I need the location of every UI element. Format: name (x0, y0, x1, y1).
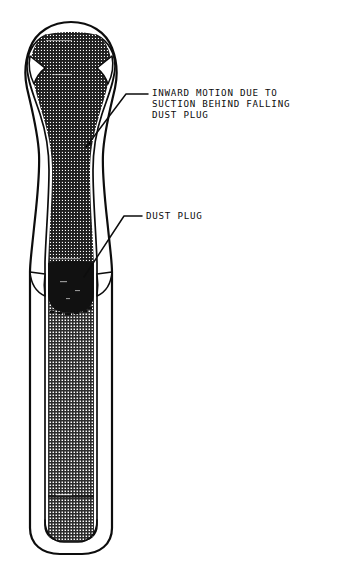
label-dust-plug: DUST PLUG (146, 210, 247, 221)
lower-granular-charge (48, 286, 94, 541)
label-dust-plug-line-1: DUST PLUG (146, 210, 203, 221)
dust-plug-mass (48, 261, 94, 313)
label-inward-motion-line-3: DUST PLUG (152, 109, 209, 120)
label-inward-motion-line-1: INWARD MOTION DUE TO (152, 87, 278, 98)
annotation-layer: INWARD MOTION DUE TO SUCTION BEHIND FALL… (84, 87, 347, 277)
technical-diagram: INWARD MOTION DUE TO SUCTION BEHIND FALL… (0, 0, 355, 570)
diagram-canvas: INWARD MOTION DUE TO SUCTION BEHIND FALL… (0, 0, 355, 570)
label-inward-motion-line-2: SUCTION BEHIND FALLING (152, 98, 290, 109)
tube-assembly (25, 22, 116, 554)
label-inward-motion: INWARD MOTION DUE TO SUCTION BEHIND FALL… (152, 87, 347, 120)
